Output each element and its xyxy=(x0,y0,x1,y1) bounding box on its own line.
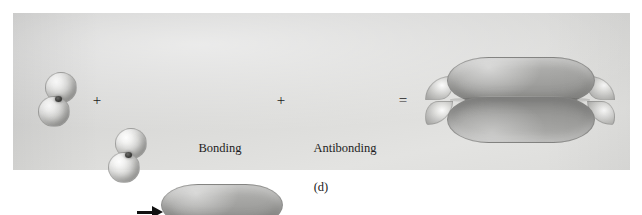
orbital-diagram-panel: + + xyxy=(13,13,630,170)
p-orbital-atomic-1 xyxy=(38,72,82,128)
label-antibonding: Antibonding xyxy=(313,141,376,156)
operator-plus-2: + xyxy=(277,93,285,108)
combined-bonding-core xyxy=(447,57,593,143)
operator-equals: = xyxy=(399,93,407,108)
diagram-stage: + + xyxy=(13,13,630,170)
pi-bonding-orbital xyxy=(161,184,281,215)
nucleus-dot xyxy=(55,96,62,102)
p-orbital-lobe-lower xyxy=(38,96,70,127)
operator-plus-1: + xyxy=(93,93,101,108)
p-orbital-atomic-2 xyxy=(108,128,152,184)
arrow-right-icon xyxy=(137,206,163,215)
p-orbital-lobe-lower xyxy=(108,152,140,183)
label-bonding: Bonding xyxy=(198,141,241,156)
nucleus-dot xyxy=(125,152,132,158)
figure-container: + + xyxy=(0,0,642,215)
pi-combined-orbital xyxy=(425,57,615,143)
figure-caption: (d) xyxy=(314,180,329,195)
bonding-lobe-upper xyxy=(161,184,283,215)
combined-lobe-lower xyxy=(447,96,595,143)
